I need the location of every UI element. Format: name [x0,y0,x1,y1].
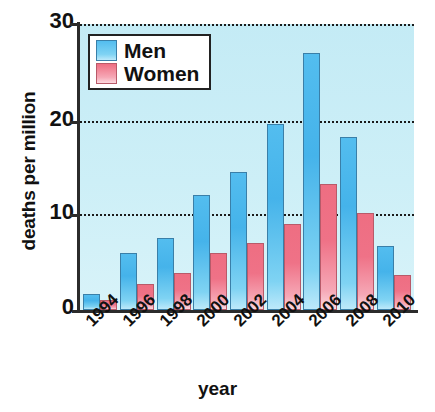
bar-group [267,24,301,310]
y-tick-label-30: 30 [34,10,74,32]
x-axis-title: year [0,378,435,400]
legend-label-men: Men [124,40,166,61]
bar-men-2004 [267,124,284,310]
legend-item-men: Men [96,40,199,61]
legend-swatch-men [96,40,117,61]
y-tick-label-10: 10 [34,201,74,223]
legend: Men Women [88,34,211,90]
bar-men-2000 [193,195,210,310]
x-axis-tick-labels: 199419961998200020022004200620082010 [78,313,412,373]
legend-label-women: Women [124,63,199,84]
bar-group [377,24,411,310]
y-tick-label-0: 0 [34,296,74,318]
legend-item-women: Women [96,63,199,84]
y-tick-label-20: 20 [34,108,74,130]
bar-group [303,24,337,310]
y-axis-tick-labels: 30 20 10 0 [30,0,74,412]
bar-men-1998 [157,238,174,310]
bar-women-2006 [320,184,337,310]
legend-swatch-women [96,63,117,84]
bar-men-2002 [230,172,247,310]
bar-group [340,24,374,310]
bar-chart: deaths per million 30 20 10 0 Men Women … [0,0,435,412]
bar-men-2006 [303,53,320,310]
bar-group [230,24,264,310]
bar-men-2008 [340,137,357,310]
